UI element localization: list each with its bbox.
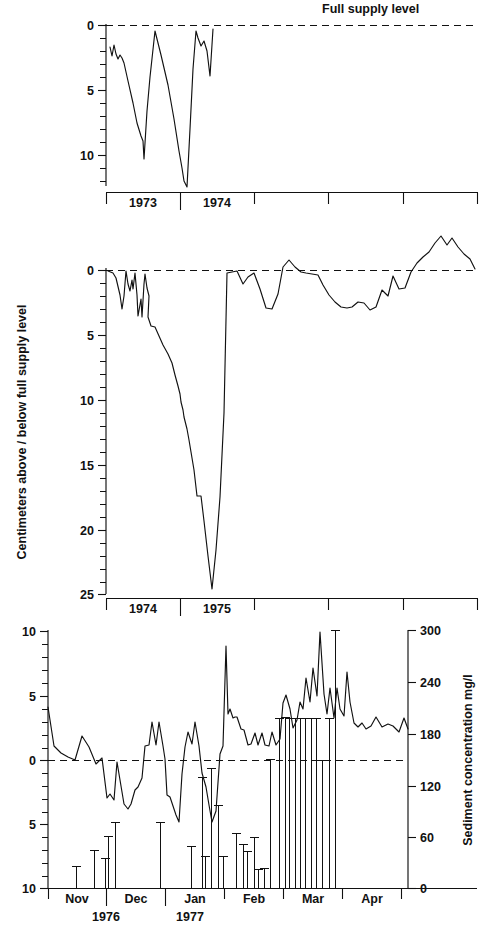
sediment-bar (243, 851, 252, 888)
x-axis-ticks-top (107, 193, 478, 211)
y-axis-title: Centimeters above / below full supply le… (15, 305, 29, 560)
sediment-bar (239, 844, 248, 888)
panel-bottom: 10 5 0 5 10 (22, 624, 477, 924)
y-tick-top-5: 5 (87, 84, 94, 98)
y-tick-bot-10-above: 10 (22, 625, 36, 639)
y-tick-mid-25: 25 (80, 588, 94, 602)
sediment-bar (312, 718, 321, 888)
x-axis-ticks-bottom (49, 889, 402, 907)
right-tick-120: 120 (420, 780, 441, 794)
y-tick-bot-0: 0 (29, 754, 36, 768)
sediment-bar (207, 768, 216, 888)
sediment-bar (214, 805, 223, 888)
three-panel-reservoir-level-figure: Full supply level 0 5 10 (0, 0, 485, 939)
sediment-bar (301, 718, 310, 888)
y-tick-top-10: 10 (80, 149, 94, 163)
sediment-bar (187, 846, 196, 888)
y-tick-mid-10: 10 (80, 394, 94, 408)
y-axis-ticks-bottom-left (40, 632, 48, 889)
y-tick-top-0: 0 (87, 19, 94, 33)
right-axis-title: Sediment concentration mg/l (461, 674, 475, 846)
x-month-dec: Dec (125, 892, 148, 906)
y-tick-mid-0: 0 (87, 264, 94, 278)
x-label-mid-1975: 1975 (203, 602, 231, 616)
sediment-bar (325, 718, 334, 888)
x-month-mar: Mar (302, 892, 324, 906)
sediment-bar (232, 833, 241, 888)
x-label-top-1973: 1973 (129, 196, 157, 210)
y-tick-bot-5-below: 5 (29, 818, 36, 832)
sediment-bar (111, 822, 120, 888)
sediment-bar (281, 717, 290, 888)
x-label-top-1974: 1974 (203, 196, 231, 210)
right-tick-180: 180 (420, 728, 441, 742)
right-tick-300: 300 (420, 624, 441, 638)
sediment-bar (90, 850, 99, 888)
y-tick-bot-10-below: 10 (22, 882, 36, 896)
water-level-line-middle (108, 236, 475, 589)
panel-middle: Centimeters above / below full supply le… (15, 236, 478, 616)
x-axis-ticks-middle (107, 599, 478, 617)
water-level-line-bottom (48, 632, 408, 822)
y-tick-mid-15: 15 (80, 459, 94, 473)
y-tick-bot-5-above: 5 (29, 690, 36, 704)
y-tick-mid-20: 20 (80, 524, 94, 538)
y-tick-mid-5: 5 (87, 329, 94, 343)
x-year-1976: 1976 (92, 910, 120, 924)
sediment-bar (318, 760, 327, 888)
x-label-mid-1974: 1974 (129, 602, 157, 616)
sediment-bars (72, 630, 340, 888)
x-month-feb: Feb (243, 892, 266, 906)
right-tick-60: 60 (420, 831, 434, 845)
x-year-1977: 1977 (176, 910, 204, 924)
water-level-line-top (110, 29, 213, 187)
sediment-bar (156, 822, 165, 888)
y-axis-ticks-top (98, 26, 106, 182)
sediment-bar (72, 866, 81, 888)
sediment-bar (260, 868, 269, 888)
y-axis-ticks-middle (98, 271, 106, 595)
sediment-bar (307, 718, 316, 888)
sediment-bar (250, 837, 259, 888)
sediment-bar (219, 856, 228, 888)
x-month-apr: Apr (361, 892, 383, 906)
sediment-bar (285, 718, 294, 888)
y-axis-ticks-bottom-right (408, 631, 416, 889)
sediment-bar (296, 718, 305, 888)
full-supply-level-annotation: Full supply level (322, 2, 419, 16)
panel-top: Full supply level 0 5 10 (80, 2, 478, 210)
sediment-bar (254, 869, 263, 888)
right-tick-240: 240 (420, 676, 441, 690)
x-month-nov: Nov (65, 892, 89, 906)
sediment-bar (331, 630, 340, 888)
sediment-bar (291, 718, 300, 888)
x-month-jan: Jan (184, 892, 206, 906)
